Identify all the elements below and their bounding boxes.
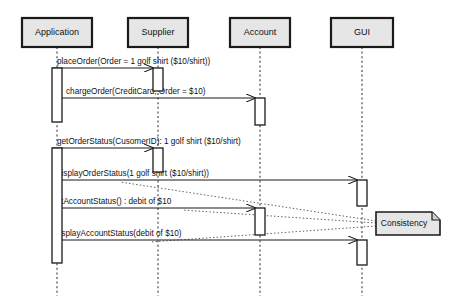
- activation-bar-account-1[interactable]: [255, 98, 265, 125]
- message-get-order-status[interactable]: getOrderStatus(CusomerID): 1 golf shirt …: [52, 137, 241, 148]
- message-label-place-order: placeOrder(Order = 1 golf shirt ($10/shi…: [57, 57, 210, 66]
- activation-bar-supplier-1[interactable]: [153, 68, 163, 91]
- message-get-account-status[interactable]: getAccountStatus() : debit of $10: [52, 197, 255, 208]
- activation-bar-supplier-2[interactable]: [153, 148, 163, 172]
- message-label-get-account-status: getAccountStatus() : debit of $10: [52, 197, 172, 206]
- lifeline-header-application[interactable]: Application: [22, 18, 92, 47]
- sequence-diagram-svg: Application Supplier Account GUI: [0, 0, 454, 306]
- activation-bar-application-2[interactable]: [52, 148, 62, 263]
- activation-bar-gui-2[interactable]: [357, 240, 367, 265]
- lifeline-header-account[interactable]: Account: [230, 18, 290, 47]
- message-label-display-account-status: displayAccountStatus(debit of $10): [55, 229, 182, 238]
- message-label-charge-order: chargeOrder(CreditCard, Order = $10): [66, 87, 206, 96]
- lifeline-label-gui: GUI: [354, 27, 370, 37]
- message-place-order[interactable]: placeOrder(Order = 1 golf shirt ($10/shi…: [52, 57, 210, 68]
- lifeline-label-supplier: Supplier: [141, 27, 174, 37]
- message-label-display-order-status: displayOrderStatus(1 golf shirt ($10/shi…: [57, 169, 209, 178]
- lifeline-header-gui[interactable]: GUI: [331, 18, 393, 47]
- activation-bar-application-1[interactable]: [52, 68, 62, 122]
- message-label-get-order-status: getOrderStatus(CusomerID): 1 golf shirt …: [57, 137, 241, 146]
- lifeline-label-application: Application: [35, 27, 79, 37]
- messages: placeOrder(Order = 1 golf shirt ($10/shi…: [52, 57, 357, 240]
- lifeline-header-supplier[interactable]: Supplier: [128, 18, 188, 47]
- activation-bar-gui-1[interactable]: [357, 180, 367, 206]
- sequence-diagram-canvas: Application Supplier Account GUI: [0, 0, 454, 306]
- lifeline-label-account: Account: [244, 27, 277, 37]
- message-display-order-status[interactable]: displayOrderStatus(1 golf shirt ($10/shi…: [57, 169, 357, 180]
- note-consistency[interactable]: Consistency: [376, 212, 440, 235]
- lifeline-headers: Application Supplier Account GUI: [22, 18, 393, 47]
- note-label-consistency: Consistency: [381, 218, 428, 228]
- activation-bar-account-2[interactable]: [255, 208, 265, 235]
